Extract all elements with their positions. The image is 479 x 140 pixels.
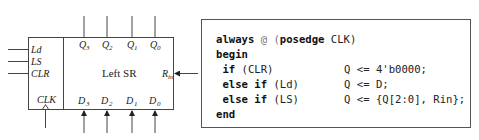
input-label-clr: CLR xyxy=(31,68,49,79)
output-subscript: 3 xyxy=(85,44,90,52)
input-label-d0: D xyxy=(148,95,157,106)
code-line: always @ (posedge CLK) xyxy=(216,32,465,47)
code-token: @ ( xyxy=(254,33,280,45)
output-subscript: 2 xyxy=(109,44,113,52)
code-token: (LS) xyxy=(267,93,299,105)
input-subscript: 1 xyxy=(134,100,138,108)
input-subscript: 2 xyxy=(109,100,113,108)
code-statement: Q <= 4'b0000; xyxy=(344,63,427,75)
code-token: else if xyxy=(216,78,267,90)
code-token: posedge xyxy=(280,33,325,45)
code-line: else if (Ld)Q <= D; xyxy=(216,77,465,92)
output-subscript: 0 xyxy=(157,44,161,52)
code-token: begin xyxy=(216,48,248,60)
code-token: else if xyxy=(216,93,267,105)
code-token: end xyxy=(216,108,235,120)
code-token: (CLR) xyxy=(235,63,273,75)
output-subscript: 1 xyxy=(134,44,138,52)
control-input-wires xyxy=(8,50,28,74)
verilog-code-box: always @ (posedge CLK)begin if (CLR)Q <=… xyxy=(201,19,471,128)
code-line: if (CLR)Q <= 4'b0000; xyxy=(216,62,465,77)
code-line: begin xyxy=(216,47,465,62)
verilog-code: always @ (posedge CLK)begin if (CLR)Q <=… xyxy=(216,32,465,122)
input-label-ld: Ld xyxy=(30,44,43,55)
code-token: (Ld) xyxy=(267,78,299,90)
input-label-d3: D xyxy=(77,95,86,106)
input-label-ls: LS xyxy=(30,56,42,67)
code-token: if xyxy=(216,63,235,75)
code-statement: Q <= {Q[2:0], Rin}; xyxy=(344,93,465,105)
code-token: CLK) xyxy=(324,33,356,45)
code-line: else if (LS)Q <= {Q[2:0], Rin}; xyxy=(216,92,465,107)
input-subscript: 0 xyxy=(157,100,161,108)
code-statement: Q <= D; xyxy=(344,78,389,90)
input-subscript: 3 xyxy=(85,100,90,108)
block-title: Left SR xyxy=(102,67,137,79)
serial-input-label: Rin xyxy=(161,68,174,81)
input-label-d2: D xyxy=(100,95,109,106)
code-token: always xyxy=(216,33,254,45)
code-line: end xyxy=(216,107,465,122)
clock-label: CLK xyxy=(37,94,57,105)
input-label-d1: D xyxy=(125,95,134,106)
